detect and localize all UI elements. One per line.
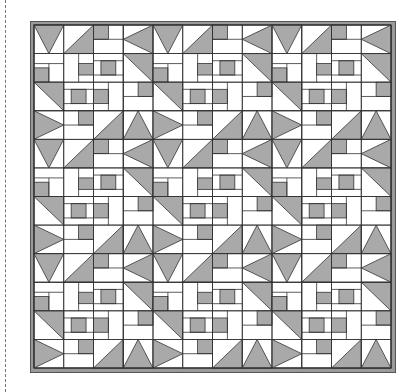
dashed-margin-line <box>5 0 6 392</box>
quilt-pattern <box>30 21 396 377</box>
quilt-canvas <box>30 21 396 373</box>
